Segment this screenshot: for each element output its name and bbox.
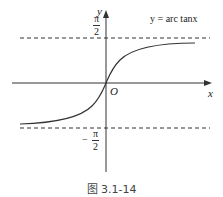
y-axis-arrow-icon xyxy=(103,10,109,18)
lower-asymptote-sign: − xyxy=(82,135,88,145)
x-axis-arrow-icon xyxy=(204,80,212,86)
upper-pi: π xyxy=(93,14,100,26)
upper-two: 2 xyxy=(94,26,99,37)
graph-canvas xyxy=(0,0,223,197)
upper-asymptote-label: π 2 xyxy=(93,14,100,37)
lower-two: 2 xyxy=(93,141,98,152)
lower-asymptote-label: π 2 xyxy=(92,129,99,152)
lower-pi: π xyxy=(92,129,99,141)
origin-label: O xyxy=(110,86,118,97)
x-axis-label: x xyxy=(208,88,213,99)
function-label: y = arc tanx xyxy=(150,14,198,24)
figure-caption: 图 3.1-14 xyxy=(0,180,223,196)
